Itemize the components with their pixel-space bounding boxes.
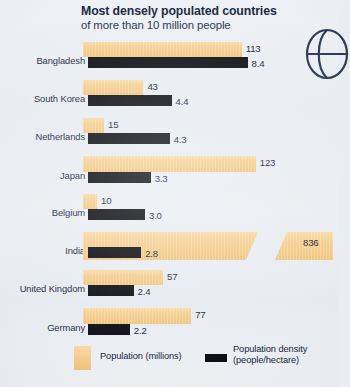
density-value-label: 2.8 xyxy=(145,248,158,259)
population-bar xyxy=(83,308,191,324)
density-value-label: 2.2 xyxy=(134,325,147,336)
population-bar xyxy=(83,118,104,133)
chart-row: Bangladesh1138.4 xyxy=(0,40,338,78)
chart-title: Most densely populated countries xyxy=(81,5,311,19)
chart-row: India8362.8 xyxy=(0,230,338,268)
population-bar xyxy=(83,42,242,57)
plot-area: Bangladesh1138.4South Korea434.4Netherla… xyxy=(0,40,338,338)
density-bar xyxy=(88,285,134,296)
category-label-netherlands: Netherlands xyxy=(36,131,85,142)
density-bar xyxy=(88,209,145,220)
population-bar xyxy=(83,80,143,95)
density-bar xyxy=(88,57,248,68)
population-value-label: 10 xyxy=(101,195,111,206)
population-value-label: 77 xyxy=(195,309,205,320)
legend-label-density-line1: Population density xyxy=(233,344,307,355)
density-value-label: 4.4 xyxy=(176,96,189,107)
legend-swatch-density xyxy=(205,354,227,362)
chart-row: United Kingdom572.4 xyxy=(0,268,338,306)
legend-label-density-line2: (people/hectare) xyxy=(233,355,299,366)
density-value-label: 2.4 xyxy=(138,286,151,297)
population-value-label: 836 xyxy=(303,237,318,248)
legend-swatch-population xyxy=(74,346,91,370)
chart-subtitle: of more than 10 million people xyxy=(81,19,311,32)
population-value-label: 57 xyxy=(167,271,177,282)
category-label-belgium: Belgium xyxy=(52,207,85,218)
density-value-label: 3.3 xyxy=(155,173,168,184)
chart-row: Belgium103.0 xyxy=(0,192,338,230)
category-label-south-korea: South Korea xyxy=(34,93,85,104)
chart-row: Japan1233.3 xyxy=(0,154,338,192)
population-bar xyxy=(83,156,256,172)
population-value-label: 123 xyxy=(260,157,275,168)
chart-row: Netherlands154.3 xyxy=(0,116,338,154)
category-label-germany: Germany xyxy=(47,322,85,333)
chart-legend: Population (millions) Population density… xyxy=(0,343,338,383)
chart-row: Germany772.2 xyxy=(0,306,338,344)
density-value-label: 3.0 xyxy=(149,210,162,221)
title-block: Most densely populated countries of more… xyxy=(81,5,311,32)
density-value-label: 4.3 xyxy=(174,134,187,145)
density-bar xyxy=(88,247,141,258)
population-value-label: 43 xyxy=(147,81,157,92)
category-label-india: India xyxy=(65,245,85,256)
population-value-label: 113 xyxy=(246,43,261,54)
legend-label-population: Population (millions) xyxy=(100,351,182,362)
population-bar xyxy=(83,194,97,209)
chart-row: South Korea434.4 xyxy=(0,78,338,116)
density-bar xyxy=(88,133,170,144)
population-value-label: 15 xyxy=(108,119,118,130)
density-value-label: 8.4 xyxy=(252,58,265,69)
category-label-bangladesh: Bangladesh xyxy=(36,55,85,66)
density-bar xyxy=(88,324,130,335)
density-bar xyxy=(88,172,151,183)
density-bar xyxy=(88,95,172,106)
category-label-united-kingdom: United Kingdom xyxy=(20,283,85,294)
population-bar xyxy=(83,270,163,285)
category-label-japan: Japan xyxy=(60,170,85,181)
